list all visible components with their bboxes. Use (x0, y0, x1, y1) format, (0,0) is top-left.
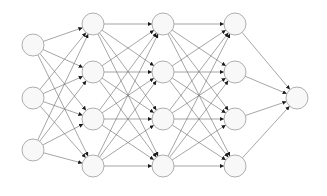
neurons (22, 13, 308, 177)
edge-input-0-to-hidden-1-3 (38, 55, 88, 156)
node-hidden-2-2 (152, 108, 174, 130)
node-output-0 (286, 87, 308, 109)
connections (38, 24, 290, 166)
node-hidden-3-1 (224, 61, 246, 83)
edge-input-0-to-hidden-1-2 (40, 54, 86, 111)
node-hidden-2-3 (152, 155, 174, 177)
edge-hidden-3-2-to-output-0 (245, 102, 286, 116)
node-hidden-3-0 (224, 13, 246, 35)
edge-input-2-to-hidden-1-3 (44, 153, 83, 163)
edge-input-1-to-hidden-1-2 (43, 102, 82, 116)
node-hidden-1-2 (82, 108, 104, 130)
node-hidden-3-2 (224, 108, 246, 130)
neural-network-diagram (0, 0, 327, 196)
edge-input-0-to-hidden-1-0 (43, 28, 82, 42)
node-input-0 (22, 34, 44, 56)
node-hidden-1-0 (82, 13, 104, 35)
node-hidden-3-3 (224, 155, 246, 177)
node-input-1 (22, 87, 44, 109)
edge-hidden-3-0-to-output-0 (242, 32, 290, 89)
node-input-2 (22, 139, 44, 161)
node-hidden-1-1 (82, 61, 104, 83)
node-hidden-2-1 (152, 61, 174, 83)
node-hidden-2-0 (152, 13, 174, 35)
edge-input-1-to-hidden-1-0 (40, 33, 86, 90)
edge-input-2-to-hidden-1-0 (38, 34, 89, 140)
edge-input-1-to-hidden-1-1 (43, 76, 83, 93)
node-hidden-1-3 (82, 155, 104, 177)
